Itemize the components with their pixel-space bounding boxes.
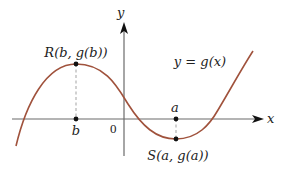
x-axis-label: x bbox=[267, 111, 275, 126]
point-s-label: S(a, g(a)) bbox=[147, 148, 208, 163]
graph-canvas: y x 0 R(b, g(b)) b a S(a, g(a)) y = g(x) bbox=[0, 0, 284, 171]
point-r-label: R(b, g(b)) bbox=[43, 45, 107, 60]
point-r bbox=[74, 62, 79, 67]
curve-label: y = g(x) bbox=[173, 54, 226, 69]
origin-label: 0 bbox=[110, 121, 117, 136]
point-s bbox=[174, 137, 179, 142]
tick-label-a: a bbox=[171, 100, 179, 115]
point-b bbox=[74, 117, 79, 122]
point-a bbox=[174, 117, 179, 122]
tick-label-b: b bbox=[72, 123, 80, 138]
y-axis-label: y bbox=[116, 5, 125, 20]
